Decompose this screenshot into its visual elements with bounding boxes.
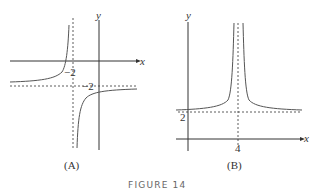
panel-a-caption: (A) (64, 160, 79, 171)
figure-caption: FIGURE 14 (128, 180, 186, 190)
panel-a-right-branch (77, 89, 137, 148)
panel-b-right-branch (243, 23, 302, 110)
panel-a-y-tick: −2 (82, 81, 94, 92)
panel-a-y-label: y (96, 10, 101, 21)
panel-b-x-label: x (304, 133, 309, 144)
panel-a (10, 18, 141, 150)
panel-b-x-tick: 4 (235, 143, 241, 154)
panel-a-left-branch (10, 25, 69, 82)
panel-b (176, 22, 305, 151)
figure-graphics (0, 0, 315, 195)
panel-a-x-tick: −2 (64, 67, 76, 78)
panel-b-caption: (B) (227, 160, 242, 171)
panel-b-y-tick: 2 (180, 112, 186, 123)
panel-a-x-label: x (140, 56, 145, 67)
panel-b-y-label: y (186, 10, 191, 21)
panel-b-left-branch (176, 23, 234, 110)
